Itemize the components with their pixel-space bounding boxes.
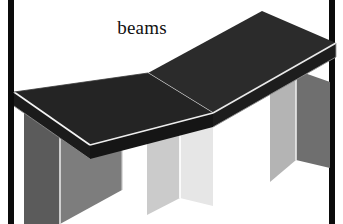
figure-root: beams [0,0,343,224]
beams-caption: beams [96,18,188,37]
right-support-right-face [296,70,330,168]
